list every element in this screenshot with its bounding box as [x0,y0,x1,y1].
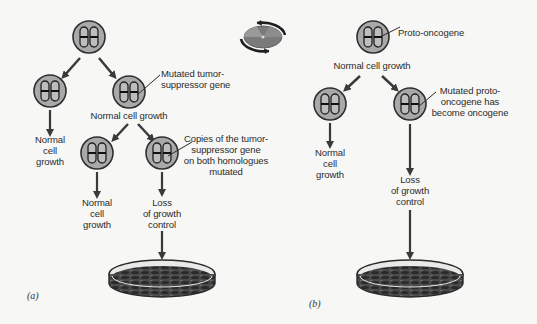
label-line: cell [35,145,65,156]
petri-dish-icon [109,260,215,297]
figure: Mutated tumor- suppressor gene Normal ce… [0,0,537,324]
double-mutation-callout: Copies of the tumor- suppressor gene on … [184,133,268,177]
petri-dish-icon [357,260,463,297]
panel-b-letter: (b) [309,298,321,309]
cell-icon [314,88,346,120]
cell-icon [81,137,113,169]
label-line: control [143,219,181,230]
mutated-proto-oncogene-callout: Mutated proto- oncogene has become oncog… [432,85,509,118]
label-line: cell [82,208,112,219]
label-line: Normal [315,147,345,158]
label-line: growth [82,219,112,230]
mutated-tumor-suppressor-callout: Mutated tumor- suppressor gene [161,68,230,90]
callout-line: suppressor gene [161,79,230,90]
callout-line: become oncogene [432,107,509,118]
proto-oncogene-callout: Proto-oncogene [398,27,464,38]
label-line: Loss [391,174,429,185]
normal-cell-growth-caption: Normal cell growth [334,60,411,71]
label-line: Normal [82,197,112,208]
label-line: Loss [143,197,181,208]
label-line: growth [315,169,345,180]
label-line: of growth [391,185,429,196]
diagram-graphics [0,0,537,324]
callout-line: mutated [184,166,268,177]
rotating-dish-icon [241,20,285,54]
normal-cell-growth-label: Normal cell growth [315,147,345,180]
normal-cell-growth-label: Normal cell growth [82,197,112,230]
cell-icon [357,21,389,53]
normal-cell-growth-label: Normal cell growth [35,134,65,167]
callout-line: Mutated proto- [432,85,509,96]
callout-line: oncogene has [432,96,509,107]
cell-icon [73,21,105,53]
label-line: growth [35,156,65,167]
label-line: of growth [143,208,181,219]
loss-of-growth-control-label: Loss of growth control [143,197,181,230]
callout-line: Copies of the tumor- [184,133,268,144]
panel-a-letter: (a) [27,290,39,301]
label-line: control [391,196,429,207]
callout-line: Mutated tumor- [161,68,230,79]
cell-icon [34,75,66,107]
label-line: Normal [35,134,65,145]
callout-line: suppressor gene [184,144,268,155]
label-line: cell [315,158,345,169]
normal-cell-growth-caption: Normal cell growth [91,110,168,121]
callout-line: on both homologues [184,155,268,166]
loss-of-growth-control-label: Loss of growth control [391,174,429,207]
